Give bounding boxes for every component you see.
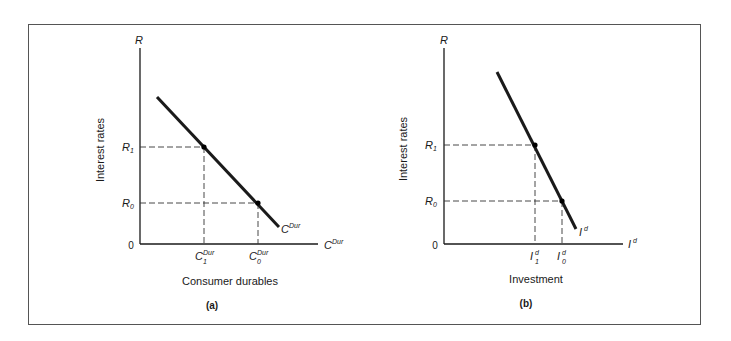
panel-b-point-r0 <box>559 198 564 203</box>
panel-a-y-symbol: R <box>135 34 143 46</box>
panel-b-ylabel: Interest rates <box>397 116 409 181</box>
panel-b: R 0 R1 R0 Interest rates Id Id Id 1 Id 0… <box>397 34 638 309</box>
panel-b-curve-label: Id <box>579 225 589 238</box>
panel-b-xlabel: Investment <box>509 273 563 285</box>
panel-a-r0-label: R0 <box>122 197 134 210</box>
panel-a-c0-sub: 0 <box>257 258 261 265</box>
panel-a-r1-label: R1 <box>122 141 134 154</box>
panel-a-origin: 0 <box>128 240 134 251</box>
panel-b-i0-sub: 0 <box>562 258 566 265</box>
panel-a-cdur-curve <box>157 97 279 227</box>
charts-canvas: R 0 R1 R0 Interest rates CDur CDur CDur … <box>0 0 731 341</box>
panel-a-panel-label: (a) <box>206 300 218 311</box>
panel-b-x-symbol: Id <box>628 237 638 250</box>
panel-b-r1-label: R1 <box>425 139 437 152</box>
panel-a-xlabel: Consumer durables <box>182 275 278 287</box>
panel-a-ylabel: Interest rates <box>94 117 106 182</box>
panel-b-r0-label: R0 <box>425 195 437 208</box>
panel-b-origin: 0 <box>432 240 438 251</box>
panel-b-id-curve <box>497 72 576 229</box>
panel-b-i1-sub: 1 <box>535 258 539 265</box>
panel-a: R 0 R1 R0 Interest rates CDur CDur CDur … <box>94 34 344 311</box>
figure: R 0 R1 R0 Interest rates CDur CDur CDur … <box>0 0 731 341</box>
panel-b-panel-label: (b) <box>520 298 533 309</box>
panel-b-point-r1 <box>532 142 537 147</box>
panel-a-x-symbol: CDur <box>324 238 344 251</box>
panel-a-curve-label: CDur <box>281 222 301 235</box>
panel-b-y-symbol: R <box>440 34 448 46</box>
panel-a-c1-sub: 1 <box>203 258 207 265</box>
panel-a-point-r1 <box>201 144 206 149</box>
panel-a-point-r0 <box>255 200 260 205</box>
